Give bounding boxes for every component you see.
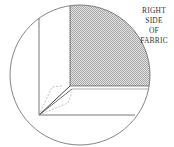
dashed-fold-guide bbox=[39, 86, 62, 115]
label-line: SIDE bbox=[134, 16, 174, 26]
label-line: OF bbox=[134, 26, 174, 36]
label-line: RIGHT bbox=[134, 6, 174, 16]
right-side-of-fabric-label: RIGHT SIDE OF FABRIC bbox=[134, 6, 174, 46]
miter-diagonal bbox=[39, 86, 70, 115]
label-line: FABRIC bbox=[134, 36, 174, 46]
